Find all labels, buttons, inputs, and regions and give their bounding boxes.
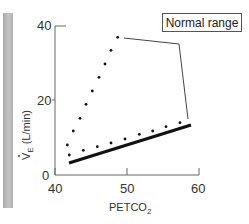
axes xyxy=(52,26,199,175)
x-tick-label-50: 50 xyxy=(120,181,134,196)
lower-dotted-series xyxy=(68,121,182,156)
callout-line xyxy=(124,38,188,119)
chart-svg: 40 20 0 40 50 60 PETCO2 VE(L/min) xyxy=(0,0,249,224)
x-tick-label-40: 40 xyxy=(48,181,62,196)
upper-dotted-series xyxy=(66,36,119,147)
x-tick-label-60: 60 xyxy=(191,181,205,196)
y-tick-label-20: 20 xyxy=(37,93,51,108)
normal-range-line xyxy=(69,125,191,163)
y-tick-label-40: 40 xyxy=(37,18,51,33)
y-axis-title: VE(L/min) xyxy=(18,110,35,160)
x-axis-title: PETCO2 xyxy=(109,201,152,216)
normal-range-label: Normal range xyxy=(162,13,242,32)
axis-frame xyxy=(55,26,199,175)
svg-text:VE(L/min): VE(L/min) xyxy=(20,110,35,160)
